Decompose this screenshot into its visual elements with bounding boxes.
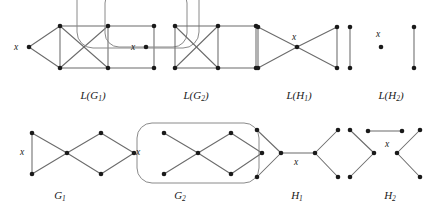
edge-b-c [164, 153, 198, 174]
vertex-b [58, 66, 63, 71]
line-graph-figure: xL(G1)xL(G2)xL(H1)xL(H2)xG1xG2xH1xH2 [0, 0, 428, 214]
vertex-tl [348, 128, 353, 133]
vertex-d [229, 131, 234, 136]
panel-caption-LG2: L(G2) [182, 89, 208, 103]
vertex-xr [400, 129, 405, 134]
vertex-xl [366, 129, 371, 134]
vertex-x [27, 45, 32, 50]
vertex-a [173, 24, 178, 29]
x-label: x [375, 29, 381, 39]
vertex-tr [335, 25, 340, 30]
caption-close: ) [101, 89, 106, 102]
vertex-c [65, 151, 70, 156]
edge-b-c [32, 153, 67, 174]
edge-d-f [231, 133, 262, 153]
edge-c-d [67, 133, 101, 153]
edge-x-tr [297, 27, 337, 47]
vertex-e [99, 172, 104, 177]
vertex-bl [255, 175, 260, 180]
x-label: x [130, 42, 136, 52]
caption-base: L(G [79, 89, 98, 102]
vertex-cr [313, 151, 318, 156]
caption-subscript: 2 [392, 194, 396, 203]
panel-caption-LH1: L(H1) [285, 89, 311, 103]
vertex-c [196, 151, 201, 156]
vertex-cr [395, 151, 400, 156]
vertex-br [336, 175, 341, 180]
vertex-b [30, 172, 35, 177]
edge-d-f [101, 133, 134, 153]
vertex-tr [336, 128, 341, 133]
panel-G2: xG2 [135, 123, 264, 203]
edge-x-br [297, 47, 337, 68]
vertex-a [162, 131, 167, 136]
vertex-e [229, 172, 234, 177]
panel-caption-H1: H1 [290, 189, 303, 203]
panel-LG2: xL(G2) [77, 0, 258, 103]
vertex-r-top [412, 25, 417, 30]
x-label: x [13, 42, 19, 52]
vertex-l-top [348, 25, 353, 30]
vertex-b [162, 172, 167, 177]
edge-cr-br [315, 153, 338, 177]
panel-LH1: xL(H1) [256, 25, 340, 104]
vertex-a [58, 24, 63, 29]
edge-a-c [32, 133, 67, 153]
x-label: x [135, 147, 141, 157]
vertex-tr [418, 128, 423, 133]
edge-e-f [101, 153, 134, 174]
edge-c-e [198, 153, 231, 174]
vertex-a [30, 131, 35, 136]
vertex-d [106, 66, 111, 71]
edge-e-f [231, 153, 262, 174]
vertex-tl [256, 25, 261, 30]
vertex-c [216, 24, 221, 29]
caption-subscript: 2 [182, 194, 186, 203]
edge-bl-x [258, 47, 297, 68]
panel-caption-G1: G1 [54, 189, 66, 203]
vertex-bl [348, 175, 353, 180]
caption-base: L(G [182, 89, 201, 102]
vertex-cl [279, 151, 284, 156]
vertex-d [99, 131, 104, 136]
vertex-b [173, 66, 178, 71]
panel-G1: xG1 [19, 131, 136, 204]
caption-base: L(H [377, 89, 397, 102]
edge-tl-cl [257, 130, 281, 153]
panel-caption-H2: H2 [383, 189, 396, 203]
figure-canvas: xL(G1)xL(G2)xL(H1)xL(H2)xG1xG2xH1xH2 [0, 0, 428, 214]
panel-H1: xH1 [255, 128, 341, 204]
edge-c-d [198, 133, 231, 153]
edge-cr-tr [397, 130, 420, 153]
edge-a-c [164, 133, 198, 153]
caption-close: ) [307, 89, 312, 102]
vertex-cl [372, 151, 377, 156]
edge-bl-cl [350, 153, 374, 177]
panel-caption-LH2: L(H2) [377, 89, 403, 103]
loop-curve-outer-loop [77, 0, 199, 48]
caption-close: ) [399, 89, 404, 102]
vertex-br [418, 175, 423, 180]
edge-cr-br [397, 153, 420, 177]
x-label: x [291, 32, 297, 42]
vertex-x [379, 45, 384, 50]
vertex-bl [256, 66, 261, 71]
vertex-l-bot [348, 66, 353, 71]
vertex-r-bot [412, 66, 417, 71]
edge-c-e [67, 153, 101, 174]
vertex-tl [255, 128, 260, 133]
vertex-br [335, 66, 340, 71]
edge-x-b [29, 47, 60, 68]
vertex-d [216, 66, 221, 71]
caption-close: ) [204, 89, 209, 102]
panel-LG1: xL(G1) [13, 24, 156, 104]
vertex-f [152, 66, 157, 71]
edge-cr-tr [315, 130, 338, 153]
caption-base: L(H [285, 89, 305, 102]
panel-LH2: xL(H2) [348, 25, 417, 104]
panel-caption-LG1: L(G1) [79, 89, 105, 103]
panel-caption-G2: G2 [174, 189, 186, 203]
vertex-c [106, 24, 111, 29]
caption-base: G [174, 189, 182, 201]
caption-base: G [54, 189, 62, 201]
